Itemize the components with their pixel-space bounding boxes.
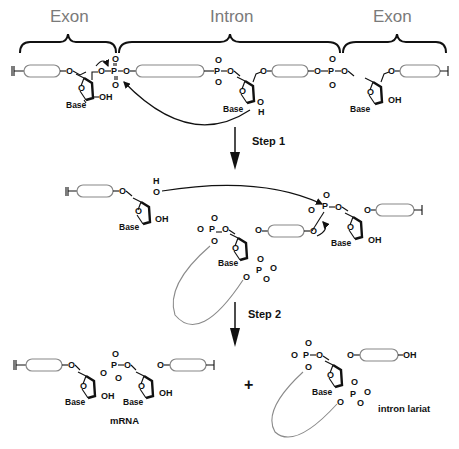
svg-text:O: O — [305, 362, 312, 372]
svg-text:P: P — [328, 66, 334, 76]
intron-lariat-label: intron lariat — [378, 403, 431, 414]
svg-text:O: O — [316, 350, 323, 360]
svg-text:O: O — [138, 381, 145, 391]
svg-text:OH: OH — [99, 92, 113, 102]
svg-text:O: O — [341, 66, 348, 76]
base-label: Base — [66, 100, 87, 110]
svg-text:O: O — [153, 187, 160, 197]
step2-arrow: Step 2 — [230, 302, 281, 347]
svg-text:O: O — [323, 190, 330, 200]
exon-segment — [170, 359, 206, 371]
intron-label: Intron — [210, 7, 253, 26]
svg-text:O: O — [329, 80, 336, 90]
intron-segment — [268, 225, 304, 237]
svg-text:O: O — [197, 224, 204, 234]
svg-text:O: O — [364, 387, 371, 397]
exon-right-brace — [343, 34, 446, 53]
svg-text:O: O — [112, 54, 119, 64]
exon-segment — [376, 204, 414, 216]
splicing-diagram: Exon Intron Exon O O Base OH O P O O O — [0, 0, 459, 449]
svg-text:O: O — [115, 373, 122, 383]
svg-text:O: O — [78, 83, 85, 93]
svg-text:H: H — [153, 176, 160, 186]
svg-text:OH: OH — [368, 235, 382, 245]
svg-text:O: O — [351, 377, 358, 387]
step1-label: Step 1 — [252, 135, 285, 147]
intron-brace — [119, 34, 340, 53]
svg-text:O: O — [364, 205, 371, 215]
base-label: Base — [65, 397, 86, 407]
svg-text:O: O — [291, 350, 298, 360]
base-label: Base — [223, 104, 244, 114]
step2-label: Step 2 — [248, 308, 281, 320]
svg-text:O: O — [263, 274, 270, 284]
svg-text:O: O — [239, 86, 246, 96]
base-label: Base — [123, 397, 144, 407]
svg-text:O: O — [305, 338, 312, 348]
svg-text:P: P — [322, 201, 328, 211]
svg-text:O: O — [66, 66, 73, 76]
intron-segment — [272, 65, 308, 77]
svg-text:O: O — [124, 360, 131, 370]
exon-segment — [26, 359, 62, 371]
plus-sign: + — [244, 376, 253, 393]
svg-text:O: O — [329, 54, 336, 64]
svg-text:O: O — [112, 349, 119, 359]
svg-text:O: O — [257, 97, 264, 107]
svg-text:OH: OH — [403, 350, 417, 360]
exon-right-label: Exon — [373, 7, 412, 26]
region-labels: Exon Intron Exon — [50, 7, 412, 26]
region-braces — [20, 34, 446, 53]
svg-text:P: P — [111, 360, 117, 370]
svg-text:P: P — [209, 224, 215, 234]
svg-text:O: O — [222, 224, 229, 234]
svg-text:O: O — [367, 87, 374, 97]
svg-text:O: O — [308, 205, 315, 215]
mrna-product: O O Base OH O P O O O O Base OH O mRNA — [14, 349, 214, 426]
svg-text:P: P — [350, 389, 356, 399]
svg-text:O: O — [347, 350, 354, 360]
svg-text:OH: OH — [155, 214, 169, 224]
svg-text:O: O — [388, 66, 395, 76]
svg-text:O: O — [357, 398, 364, 408]
base-label: Base — [119, 222, 140, 232]
svg-text:O: O — [232, 243, 239, 253]
base-label: Base — [312, 387, 333, 397]
svg-text:O: O — [119, 186, 126, 196]
svg-text:O: O — [255, 225, 262, 235]
svg-text:O: O — [310, 226, 317, 236]
svg-text:O: O — [260, 66, 267, 76]
svg-text:O: O — [211, 213, 218, 223]
svg-text:OH: OH — [159, 388, 173, 398]
intron-segment — [136, 65, 204, 77]
svg-text:P: P — [256, 265, 262, 275]
svg-text:O: O — [270, 263, 277, 273]
svg-text:O: O — [257, 254, 264, 264]
rna-segment — [24, 65, 60, 77]
svg-text:O: O — [123, 66, 130, 76]
intron-segment — [360, 349, 398, 361]
svg-text:P: P — [303, 350, 309, 360]
exon-left-brace — [20, 34, 116, 53]
lariat-loop — [272, 372, 337, 437]
base-label: Base — [331, 238, 352, 248]
svg-text:O: O — [98, 66, 105, 76]
svg-text:O: O — [347, 222, 354, 232]
step1-arrow: Step 1 — [230, 127, 285, 170]
svg-text:OH: OH — [388, 95, 402, 105]
rna-segment — [400, 65, 440, 77]
intron-lariat-product: O O P O O O Base O OH O P O O O intron l… — [272, 338, 431, 437]
mrna-label: mRNA — [110, 415, 139, 426]
svg-text:H: H — [258, 107, 265, 117]
svg-text:O: O — [215, 77, 222, 87]
svg-text:O: O — [112, 80, 119, 90]
svg-text:OH: OH — [101, 391, 115, 401]
svg-text:O: O — [327, 370, 334, 380]
svg-text:O: O — [100, 368, 107, 378]
svg-text:O: O — [68, 360, 75, 370]
svg-text:O: O — [215, 55, 222, 65]
svg-text:O: O — [157, 360, 164, 370]
svg-text:O: O — [335, 202, 342, 212]
svg-text:O: O — [80, 381, 87, 391]
svg-text:O: O — [227, 66, 234, 76]
